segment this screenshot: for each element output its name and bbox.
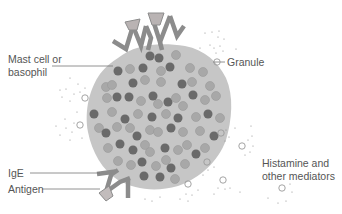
ige-label: IgE <box>8 167 24 179</box>
granule-label: Granule <box>227 56 264 68</box>
mast-cell-label: Mast cell or <box>8 53 62 65</box>
mast-cell-label-line2: basophil <box>8 66 47 78</box>
mediators-label: Histamine and <box>262 157 329 169</box>
antigen-label: Antigen <box>8 183 44 195</box>
mediators-label-line2: other mediators <box>262 170 335 182</box>
diagram-canvas: Mast cell or basophil Granule IgE Antige… <box>0 0 342 214</box>
